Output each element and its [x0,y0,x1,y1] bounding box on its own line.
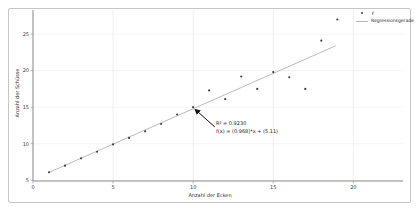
svg-text:5: 5 [26,177,29,183]
svg-text:20: 20 [23,67,29,73]
data-point [224,98,226,100]
annotation-arrow [195,109,215,127]
legend-entry-y: y [356,10,414,16]
regression-line [49,46,336,173]
data-point [96,151,98,153]
regression-annotation: R² = 0.9230 f(x) = (0.968)*x + (5.11) [216,120,278,135]
x-tick-labels: 05101520 [31,184,356,190]
scatter-marker-icon [361,12,363,14]
data-point [160,123,162,125]
data-point [144,130,146,132]
data-point [112,143,114,145]
data-point [80,157,82,159]
data-point [64,165,66,167]
data-point [304,88,306,90]
line-marker-icon [356,21,368,22]
y-tick-labels: 510152025 [23,31,29,183]
svg-text:0: 0 [31,184,34,190]
annotation-r-squared: R² = 0.9230 [216,120,278,128]
svg-text:20: 20 [350,184,356,190]
data-point [256,88,258,90]
svg-text:5: 5 [111,184,114,190]
annotation-equation: f(x) = (0.968)*x + (5.11) [216,128,278,136]
data-point [128,137,130,139]
svg-text:15: 15 [23,104,29,110]
axes [31,10,404,184]
data-point [176,113,178,115]
svg-text:10: 10 [23,141,29,147]
y-axis-label: Anzahl der Schüsse [14,69,20,118]
data-point [288,76,290,78]
data-point [208,89,210,91]
data-point [320,40,322,42]
legend: y Regressionsgerade [356,10,414,24]
chart-figure: 05101520510152025 R² = 0.9230 f(x) = (0.… [0,0,417,211]
x-axis-label: Anzahl der Ecken [188,192,231,198]
data-point [336,18,338,20]
scatter-plot-canvas: 05101520510152025 [0,0,417,211]
svg-text:15: 15 [270,184,276,190]
legend-entry-regression: Regressionsgerade [356,18,414,24]
svg-text:25: 25 [23,31,29,37]
data-point [240,75,242,77]
data-point [192,106,194,108]
legend-label-y: y [371,10,374,16]
data-point [272,71,274,73]
legend-label-regression: Regressionsgerade [371,18,414,24]
data-point [48,171,50,173]
svg-text:10: 10 [190,184,196,190]
